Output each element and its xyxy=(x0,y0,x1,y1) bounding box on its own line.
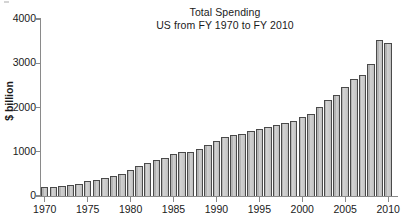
bar xyxy=(376,40,383,196)
bar xyxy=(67,185,74,196)
bar xyxy=(367,64,374,196)
bar xyxy=(135,166,142,196)
bar xyxy=(170,154,177,196)
x-tick-mark xyxy=(259,197,260,202)
x-tick-mark xyxy=(302,197,303,202)
x-tick-mark xyxy=(44,197,45,202)
bar xyxy=(264,127,271,196)
x-tick-mark xyxy=(388,197,389,202)
x-tick-label: 2000 xyxy=(282,203,322,215)
chart-title: Total Spending xyxy=(130,6,320,19)
bar xyxy=(238,134,245,196)
bar xyxy=(384,43,391,196)
bar xyxy=(213,141,220,196)
x-tick-mark xyxy=(87,197,88,202)
bar xyxy=(350,79,357,196)
bar xyxy=(127,170,134,196)
x-tick-label: 2010 xyxy=(368,203,404,215)
bar xyxy=(101,178,108,196)
plot-area xyxy=(41,19,393,196)
x-tick-label: 1970 xyxy=(25,203,65,215)
bar xyxy=(161,158,168,196)
y-tick-label: 1000 xyxy=(4,145,36,157)
bar xyxy=(50,187,57,196)
bar xyxy=(178,152,185,196)
x-tick-label: 1980 xyxy=(111,203,151,215)
bar xyxy=(290,121,297,196)
bar xyxy=(75,184,82,196)
bar xyxy=(273,125,280,196)
scan-artifact xyxy=(4,1,9,3)
bar xyxy=(196,149,203,196)
bar xyxy=(230,135,237,196)
bar xyxy=(41,187,48,196)
x-tick-label: 1995 xyxy=(239,203,279,215)
x-tick-mark xyxy=(173,197,174,202)
chart-figure: Total Spending US from FY 1970 to FY 201… xyxy=(0,0,404,223)
bar xyxy=(316,107,323,196)
x-tick-mark xyxy=(345,197,346,202)
bar xyxy=(118,174,125,196)
y-tick-label: 2000 xyxy=(4,101,36,113)
bar xyxy=(247,131,254,196)
y-tick-label: 4000 xyxy=(4,12,36,24)
bar xyxy=(84,181,91,196)
bar xyxy=(324,100,331,196)
bar xyxy=(333,95,340,196)
y-tick-label: 3000 xyxy=(4,56,36,68)
bar xyxy=(110,176,117,196)
bar xyxy=(307,114,314,196)
x-tick-label: 1990 xyxy=(196,203,236,215)
bar xyxy=(221,137,228,196)
bar xyxy=(341,87,348,196)
bar xyxy=(144,163,151,196)
x-tick-label: 1975 xyxy=(68,203,108,215)
x-tick-label: 2005 xyxy=(325,203,365,215)
bar xyxy=(187,152,194,196)
y-tick-label: 0 xyxy=(4,189,36,201)
bar xyxy=(256,129,263,196)
x-tick-label: 1985 xyxy=(154,203,194,215)
bar xyxy=(281,123,288,196)
bar xyxy=(299,117,306,196)
bar xyxy=(204,145,211,196)
bar xyxy=(93,180,100,196)
bar xyxy=(153,160,160,196)
bar xyxy=(359,75,366,196)
bar xyxy=(58,186,65,196)
x-tick-mark xyxy=(216,197,217,202)
x-tick-mark xyxy=(130,197,131,202)
